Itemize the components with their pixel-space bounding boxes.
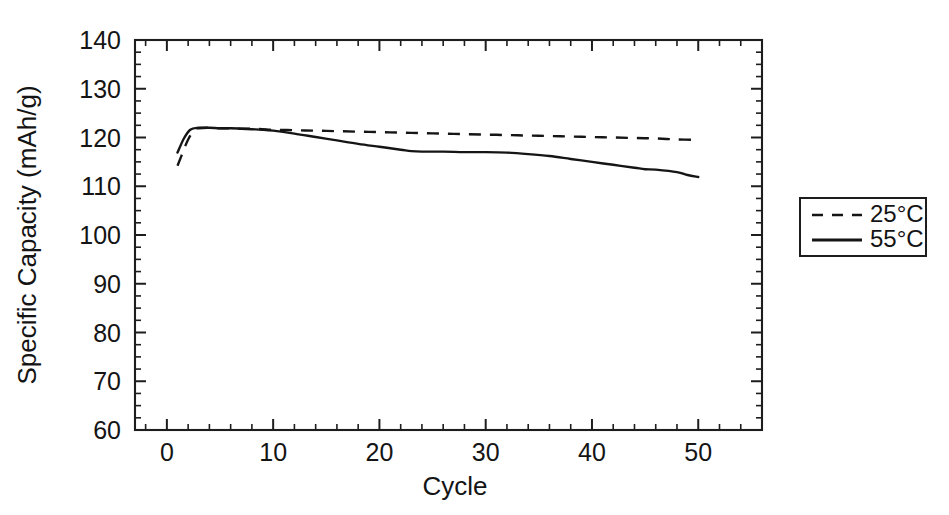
y-tick-label: 100	[79, 221, 121, 249]
x-tick-label: 50	[684, 438, 712, 466]
y-axis-title: Specific Capacity (mAh/g)	[12, 85, 42, 384]
y-tick-label: 130	[79, 75, 121, 103]
chart-figure: 0102030405060708090100110120130140 Cycle…	[0, 0, 949, 515]
chart-svg: 0102030405060708090100110120130140 Cycle…	[0, 0, 949, 515]
plot-background	[135, 40, 762, 430]
x-tick-label: 30	[472, 438, 500, 466]
y-tick-label: 70	[93, 367, 121, 395]
y-tick-label: 60	[93, 416, 121, 444]
x-tick-label: 40	[578, 438, 606, 466]
x-axis-title: Cycle	[422, 471, 487, 501]
y-tick-label: 80	[93, 319, 121, 347]
legend-label-25c: 25°C	[870, 200, 924, 227]
y-tick-label: 120	[79, 124, 121, 152]
chart-legend: 25°C 55°C	[800, 198, 926, 256]
x-tick-label: 0	[160, 438, 174, 466]
y-tick-label: 140	[79, 26, 121, 54]
y-tick-label: 90	[93, 270, 121, 298]
y-tick-label: 110	[81, 172, 121, 200]
x-tick-label: 20	[366, 438, 394, 466]
legend-label-55c: 55°C	[870, 225, 924, 252]
x-tick-label: 10	[259, 438, 287, 466]
